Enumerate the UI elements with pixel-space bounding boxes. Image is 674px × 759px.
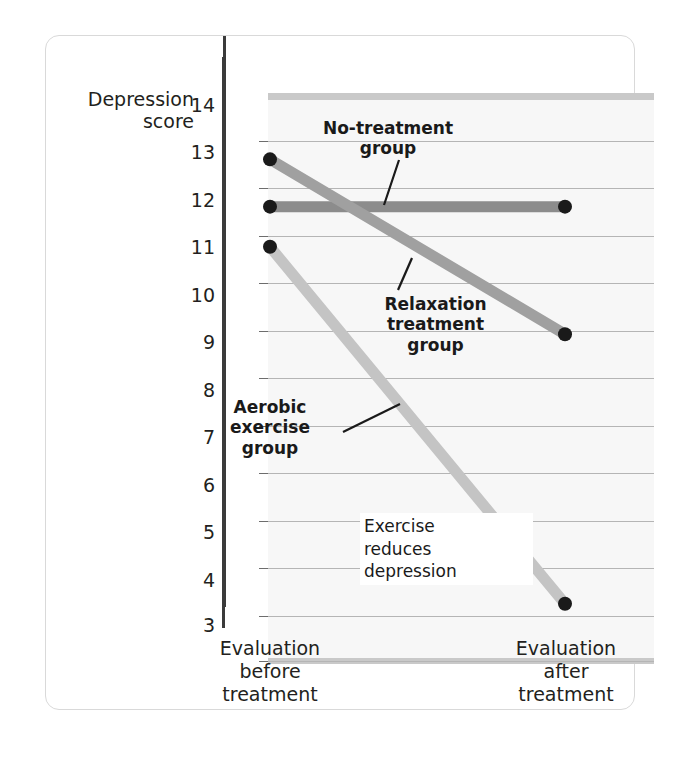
x-axis-label-after-line3: treatment	[486, 683, 646, 706]
annotation-aerobic-line3: group	[205, 438, 335, 458]
annotation-caption: Exercise reduces depression	[360, 513, 533, 585]
x-axis-label-after-line2: after	[486, 660, 646, 683]
y-tick-label-6: 6	[177, 474, 215, 496]
annotation-no-treatment-line2: group	[318, 138, 458, 158]
x-axis-label-before-line1: Evaluation	[190, 637, 350, 660]
annotation-caption-line3: depression	[364, 560, 529, 583]
annotation-no-treatment-group: No-treatment group	[318, 118, 458, 159]
x-axis-label-after-line1: Evaluation	[486, 637, 646, 660]
y-tick-label-14: 14	[177, 94, 215, 116]
y-tick-label-4: 4	[177, 569, 215, 591]
annotation-aerobic-line1: Aerobic	[205, 397, 335, 417]
x-axis-label-before: Evaluation before treatment	[190, 637, 350, 705]
x-axis-label-before-line2: before	[190, 660, 350, 683]
annotation-relaxation-line2: treatment	[368, 314, 503, 334]
annotation-aerobic-line2: exercise	[205, 417, 335, 437]
y-tick-label-10: 10	[177, 284, 215, 306]
x-axis-label-after: Evaluation after treatment	[486, 637, 646, 705]
annotation-caption-line2: reduces	[364, 538, 529, 561]
y-tick-label-3: 3	[177, 614, 215, 636]
annotation-no-treatment-line1: No-treatment	[318, 118, 458, 138]
annotation-caption-line1: Exercise	[364, 515, 529, 538]
x-axis-label-before-line3: treatment	[190, 683, 350, 706]
annotation-aerobic-group: Aerobic exercise group	[205, 397, 335, 458]
y-tick-label-9: 9	[177, 331, 215, 353]
annotation-relaxation-line1: Relaxation	[368, 294, 503, 314]
annotation-relaxation-group: Relaxation treatment group	[368, 294, 503, 355]
y-tick-label-5: 5	[177, 521, 215, 543]
annotation-relaxation-line3: group	[368, 335, 503, 355]
y-tick-label-11: 11	[177, 236, 215, 258]
y-tick-label-13: 13	[177, 141, 215, 163]
y-tick-label-12: 12	[177, 189, 215, 211]
